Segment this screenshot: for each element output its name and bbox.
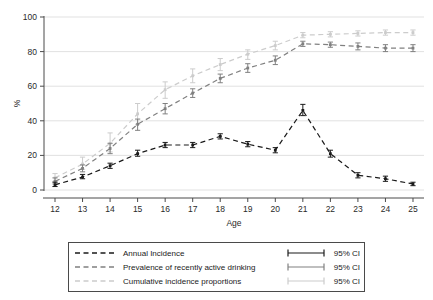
legend-ci-label-cumulative: 95% CI (330, 277, 360, 286)
legend-label-prevalence: Prevalence of recently active drinking (117, 263, 282, 272)
series-prevalence-of-recently-active-drinking (52, 41, 415, 184)
x-axis-tick-label: 18 (215, 204, 225, 214)
x-axis-tick-label: 17 (188, 204, 198, 214)
x-axis-tick-label: 20 (271, 204, 281, 214)
x-axis-title: Age (226, 218, 241, 228)
x-axis-tick-label: 23 (353, 204, 363, 214)
y-axis-tick-label: 40 (28, 116, 38, 126)
legend-line-swatch-cumulative (73, 276, 117, 286)
x-axis-tick-label: 21 (298, 204, 308, 214)
legend-ci-marker-prevalence (282, 262, 330, 272)
x-axis-tick-label: 19 (243, 204, 253, 214)
chart-legend: Annual Incidence 95% CI Prevalence of re… (68, 242, 365, 292)
chart-figure: 020406080100%121314151617181920212223242… (0, 0, 433, 300)
legend-ci-label-prevalence: 95% CI (330, 263, 360, 272)
y-axis-tick-label: 100 (23, 12, 37, 22)
legend-ci-marker-annual-incidence (282, 248, 330, 258)
x-axis-tick-label: 14 (105, 204, 115, 214)
legend-label-annual-incidence: Annual Incidence (117, 249, 282, 258)
y-axis-tick-label: 80 (28, 47, 38, 57)
series-cumulative-incidence-proportions (52, 30, 415, 181)
x-axis-tick-label: 12 (50, 204, 60, 214)
x-axis-tick-label: 22 (326, 204, 336, 214)
legend-line-swatch-annual-incidence (73, 248, 117, 258)
y-axis-tick-label: 20 (28, 150, 38, 160)
x-axis-tick-label: 16 (160, 204, 170, 214)
x-axis-tick-label: 15 (133, 204, 143, 214)
x-axis-tick-label: 25 (408, 204, 418, 214)
y-axis-tick-label: 60 (28, 81, 38, 91)
y-axis-title: % (12, 99, 22, 107)
legend-label-cumulative: Cumulative incidence proportions (117, 277, 282, 286)
legend-row: Prevalence of recently active drinking 9… (73, 260, 360, 274)
x-axis-tick-label: 13 (78, 204, 88, 214)
y-axis-tick-label: 0 (32, 185, 37, 195)
legend-ci-marker-cumulative (282, 276, 330, 286)
legend-ci-label-annual-incidence: 95% CI (330, 249, 360, 258)
legend-row: Annual Incidence 95% CI (73, 246, 360, 260)
x-axis-tick-label: 24 (381, 204, 391, 214)
legend-line-swatch-prevalence (73, 262, 117, 272)
legend-row: Cumulative incidence proportions 95% CI (73, 274, 360, 288)
